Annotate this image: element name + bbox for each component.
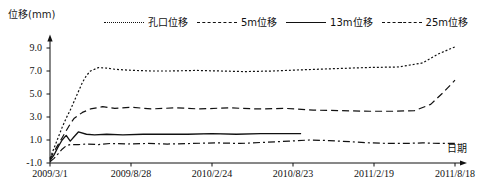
x-tick-label: 2011/8/18 [415, 168, 480, 179]
x-tick-label: 2010/2/24 [172, 168, 252, 179]
x-axis-title: 日期 [447, 140, 467, 155]
x-tick-label: 2009/8/28 [91, 168, 171, 179]
x-tick-label: 2009/3/1 [10, 168, 90, 179]
y-tick-label: 1.0 [8, 134, 42, 145]
y-tick-label: 3.0 [8, 111, 42, 122]
x-tick-label: 2010/8/23 [253, 168, 333, 179]
series-line-1 [50, 80, 455, 159]
series-line-0 [50, 47, 455, 159]
y-tick-label: -1.0 [8, 157, 42, 168]
series-line-3 [50, 140, 455, 162]
x-tick-label: 2011/2/19 [334, 168, 414, 179]
y-tick-label: 9.0 [8, 42, 42, 53]
series-line-2 [50, 132, 301, 161]
y-tick-label: 7.0 [8, 65, 42, 76]
y-tick-label: 5.0 [8, 88, 42, 99]
